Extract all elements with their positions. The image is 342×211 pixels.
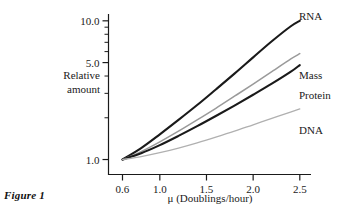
y-axis-tick-label: 5.0: [86, 57, 100, 69]
series-curve-dna: [123, 109, 300, 160]
y-axis-tick-label: 1.0: [86, 154, 100, 166]
series-curve-protein: [123, 65, 300, 159]
y-axis-label-line2: amount: [67, 83, 100, 95]
x-axis-label: μ (Doublings/hour): [167, 192, 252, 205]
x-axis-tick-label: 2.5: [293, 183, 307, 195]
x-axis-tick-label: 1.0: [153, 183, 167, 195]
series-label-protein: Protein: [299, 89, 331, 101]
series-label-mass: Mass: [299, 69, 322, 81]
y-axis-label-line1: Relative: [63, 69, 100, 81]
series-label-rna: RNA: [299, 10, 322, 22]
chart-series-labels: RNAMassProteinDNA: [299, 10, 331, 136]
y-axis-ticks: [103, 21, 109, 160]
figure-caption: Figure 1: [4, 189, 45, 201]
x-axis-tick-label: 0.6: [116, 183, 130, 195]
series-label-dna: DNA: [299, 124, 323, 136]
y-axis-tick-label: 10.0: [80, 15, 100, 27]
relative-amount-vs-growth-rate-chart: 1.05.010.0 0.61.01.52.02.5 RNAMassProtei…: [0, 0, 342, 211]
x-axis-ticks: [122, 175, 299, 181]
figure-container: 1.05.010.0 0.61.01.52.02.5 RNAMassProtei…: [0, 0, 342, 211]
chart-series-curves: [123, 21, 300, 160]
